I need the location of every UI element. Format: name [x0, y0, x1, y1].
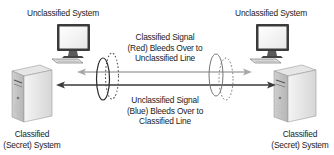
label-unclassified-system-right: Unclassified System — [216, 8, 326, 19]
unclassified-line — [77, 69, 252, 76]
classified-line — [56, 82, 276, 89]
label-unclassified-system-left: Unclassified System — [8, 8, 118, 19]
left-server-tower-icon — [12, 65, 52, 122]
label-classified-system-left: Classified (Secret) System — [0, 129, 68, 150]
right-desktop-monitor-icon — [250, 24, 289, 63]
right-server-tower-icon — [274, 65, 316, 122]
annotation-blue-bleed: Unclassified Signal (Blue) Bleeds Over t… — [110, 95, 220, 127]
label-classified-system-right: Classified (Secret) System — [264, 129, 334, 150]
annotation-red-bleed: Classified Signal (Red) Bleeds Over to U… — [110, 32, 220, 64]
left-desktop-monitor-icon — [52, 24, 90, 63]
